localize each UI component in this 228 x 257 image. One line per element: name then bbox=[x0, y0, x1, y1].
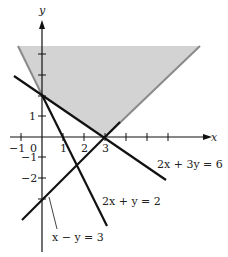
y-axis-arrow-icon bbox=[39, 20, 45, 29]
equation-label-2x-y-2: 2x + y = 2 bbox=[102, 195, 161, 208]
y-axis-label: y bbox=[38, 4, 46, 17]
label-leader-line bbox=[49, 197, 57, 229]
x-axis-label: x bbox=[211, 131, 218, 144]
x-tick-label: 2 bbox=[81, 142, 88, 155]
x-tick-label: 3 bbox=[102, 142, 109, 155]
equation-label-x-y-3: x − y = 3 bbox=[52, 231, 104, 244]
x-tick-label: 1 bbox=[60, 142, 67, 155]
shaded-region bbox=[18, 46, 200, 137]
y-tick-label: 1 bbox=[29, 110, 36, 123]
y-tick-label: −2 bbox=[21, 172, 37, 185]
y-tick-label: −1 bbox=[21, 151, 37, 164]
graph-canvas: y x −1 0 1 2 3 1 −1 −2 2x + 3y = 6 2x + … bbox=[0, 0, 228, 257]
equation-label-2x-3y-6: 2x + 3y = 6 bbox=[157, 158, 223, 171]
